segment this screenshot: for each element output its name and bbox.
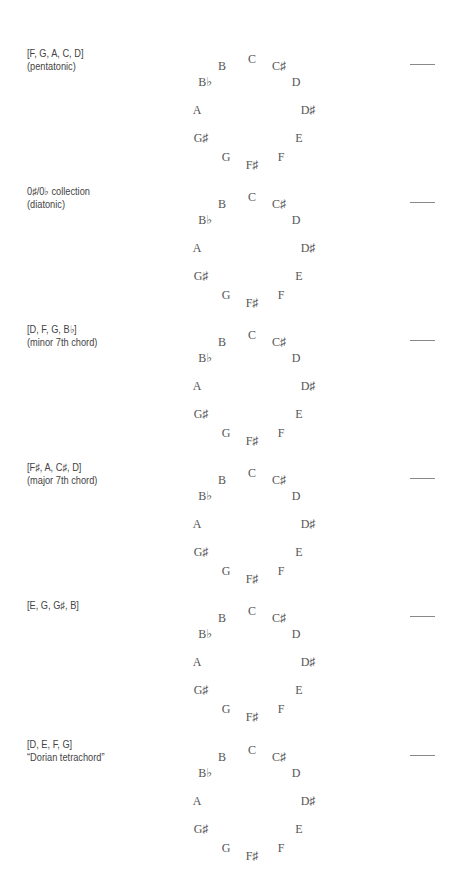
pitch-set-row: [D, F, G, B♭](minor 7th chord)CC♯DD♯EFF♯…	[0, 276, 457, 414]
note-b-flat: B♭	[198, 767, 212, 779]
placeholder-dash	[410, 340, 435, 341]
set-caption: [F, G, A, C, D](pentatonic)	[27, 47, 83, 73]
note-a: A	[193, 242, 202, 254]
set-label: [F, G, A, C, D]	[27, 47, 83, 60]
note-b: B	[218, 612, 226, 624]
note-a: A	[193, 104, 202, 116]
placeholder-dash	[410, 64, 435, 65]
note-c-sharp: C♯	[272, 198, 286, 210]
set-description: (diatonic)	[27, 198, 90, 211]
note-d-sharp: D♯	[301, 380, 316, 392]
note-b-flat: B♭	[198, 352, 212, 364]
note-b-flat: B♭	[198, 628, 212, 640]
note-c-sharp: C♯	[272, 751, 286, 763]
note-d: D	[292, 490, 301, 502]
note-d-sharp: D♯	[301, 104, 316, 116]
note-d: D	[292, 767, 301, 779]
set-label: [F♯, A, C♯, D]	[27, 461, 97, 474]
set-label: [D, F, G, B♭]	[27, 323, 97, 336]
note-b-flat: B♭	[198, 490, 212, 502]
note-c: C	[248, 605, 256, 617]
set-caption: [F♯, A, C♯, D](major 7th chord)	[27, 461, 97, 487]
placeholder-dash	[410, 616, 435, 617]
note-a: A	[193, 795, 202, 807]
set-description: “Dorian tetrachord”	[27, 751, 105, 764]
note-g: G	[222, 842, 231, 854]
note-d-sharp: D♯	[301, 656, 316, 668]
set-caption: [E, G, G♯, B]	[27, 599, 79, 612]
set-description: (pentatonic)	[27, 60, 83, 73]
note-d: D	[292, 628, 301, 640]
note-e: E	[295, 823, 302, 835]
note-b-flat: B♭	[198, 214, 212, 226]
note-c-sharp: C♯	[272, 474, 286, 486]
note-c-sharp: C♯	[272, 336, 286, 348]
note-d: D	[292, 76, 301, 88]
pitch-set-row: [F, G, A, C, D](pentatonic)CC♯DD♯EFF♯GG♯…	[0, 0, 457, 138]
note-c: C	[248, 53, 256, 65]
note-f-sharp: F♯	[246, 850, 259, 862]
note-c: C	[248, 744, 256, 756]
note-a: A	[193, 380, 202, 392]
placeholder-dash	[410, 478, 435, 479]
set-caption: [D, F, G, B♭](minor 7th chord)	[27, 323, 97, 349]
note-c: C	[248, 329, 256, 341]
set-label: [D, E, F, G]	[27, 738, 105, 751]
placeholder-dash	[410, 202, 435, 203]
note-d-sharp: D♯	[301, 242, 316, 254]
set-caption: [D, E, F, G]“Dorian tetrachord”	[27, 738, 105, 764]
pitch-set-row: [E, G, G♯, B]CC♯DD♯EFF♯GG♯AB♭B	[0, 552, 457, 690]
note-g-sharp: G♯	[194, 823, 209, 835]
note-b: B	[218, 474, 226, 486]
note-d: D	[292, 214, 301, 226]
note-b: B	[218, 198, 226, 210]
pitch-set-row: [D, E, F, G]“Dorian tetrachord”CC♯DD♯EFF…	[0, 691, 457, 829]
note-a: A	[193, 518, 202, 530]
note-c-sharp: C♯	[272, 60, 286, 72]
set-description: (minor 7th chord)	[27, 336, 97, 349]
note-d-sharp: D♯	[301, 795, 316, 807]
note-c: C	[248, 467, 256, 479]
note-b: B	[218, 336, 226, 348]
note-d-sharp: D♯	[301, 518, 316, 530]
placeholder-dash	[410, 755, 435, 756]
note-a: A	[193, 656, 202, 668]
pitch-set-row: 0♯/0♭ collection(diatonic)CC♯DD♯EFF♯GG♯A…	[0, 138, 457, 276]
note-c-sharp: C♯	[272, 612, 286, 624]
set-description: (major 7th chord)	[27, 474, 97, 487]
pitch-set-row: [F♯, A, C♯, D](major 7th chord)CC♯DD♯EFF…	[0, 414, 457, 552]
note-c: C	[248, 191, 256, 203]
note-b: B	[218, 751, 226, 763]
note-f: F	[278, 842, 285, 854]
note-b-flat: B♭	[198, 76, 212, 88]
note-d: D	[292, 352, 301, 364]
note-b: B	[218, 60, 226, 72]
set-label: 0♯/0♭ collection	[27, 185, 90, 198]
set-label: [E, G, G♯, B]	[27, 599, 79, 612]
set-caption: 0♯/0♭ collection(diatonic)	[27, 185, 90, 211]
